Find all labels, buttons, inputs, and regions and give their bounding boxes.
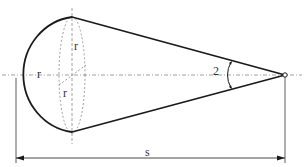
dimension-arrow-left bbox=[16, 156, 24, 161]
label-half-angle: 2 bbox=[213, 64, 219, 78]
label-r-vertical: r bbox=[74, 39, 78, 53]
label-r-oblique: r bbox=[63, 86, 67, 100]
teardrop-outline bbox=[23, 17, 285, 132]
label-length-s: s bbox=[145, 145, 150, 159]
apex-point bbox=[283, 73, 287, 77]
dimension-arrow-right bbox=[277, 156, 285, 161]
label-r-horizontal: r bbox=[37, 67, 41, 81]
oblique-radius-line bbox=[59, 65, 86, 85]
teardrop-diagram: r r r 2 s bbox=[0, 0, 304, 167]
